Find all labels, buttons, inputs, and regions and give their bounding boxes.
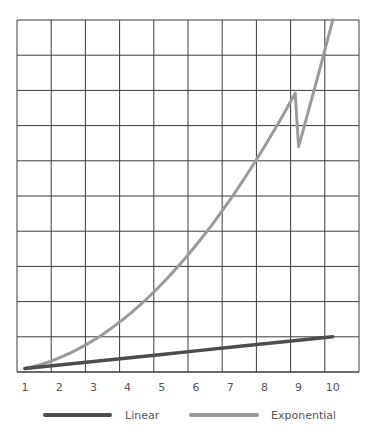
x-axis-ticks: 12345678910 [22, 381, 340, 394]
legend: Linear Exponential [45, 409, 336, 422]
x-tick-label: 6 [193, 381, 200, 394]
series-lines [25, 20, 333, 368]
x-tick-label: 8 [261, 381, 268, 394]
series-line-exponential [25, 20, 333, 368]
x-tick-label: 7 [227, 381, 234, 394]
x-tick-label: 1 [22, 381, 29, 394]
grid [17, 20, 359, 372]
x-tick-label: 5 [158, 381, 165, 394]
chart: 12345678910 Linear Exponential [0, 0, 380, 439]
x-tick-label: 3 [90, 381, 97, 394]
legend-label-exponential: Exponential [271, 409, 336, 422]
x-tick-label: 2 [56, 381, 63, 394]
x-tick-label: 9 [295, 381, 302, 394]
legend-label-linear: Linear [125, 409, 160, 422]
x-tick-label: 4 [124, 381, 131, 394]
x-tick-label: 10 [326, 381, 340, 394]
